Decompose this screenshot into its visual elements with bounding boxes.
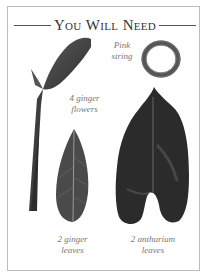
ginger-leaves-label: 2 ginger leaves (50, 234, 95, 256)
anthurium-leaf-image (113, 85, 193, 229)
page-title: YOU WILL NEED (51, 16, 159, 34)
title-rule-left (14, 25, 51, 26)
anthurium-leaves-label: 2 anthurium leaves (120, 234, 186, 256)
title-rule-right (159, 25, 196, 26)
pink-string-image (140, 38, 182, 80)
ginger-leaf-image (52, 127, 92, 224)
pink-string-label: Pink string (104, 40, 140, 62)
ginger-flowers-label: 4 ginger flowers (62, 93, 107, 115)
title-row: YOU WILL NEED (14, 17, 196, 33)
